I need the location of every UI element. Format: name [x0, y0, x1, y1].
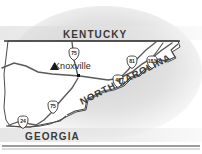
state-label-kentucky: KENTUCKY: [63, 29, 127, 40]
shield-label-i81: 81: [129, 58, 135, 64]
shield-label-i75-north: 75: [71, 50, 77, 56]
state-label-georgia: GEORGIA: [25, 131, 80, 142]
city-dot: [77, 74, 80, 77]
city-label-knoxville: Knoxville: [54, 61, 91, 71]
shield-label-i75-south: 75: [50, 103, 56, 109]
shield-label-i24: 24: [20, 118, 26, 124]
locator-map-figure: 75 81 181 40 75 24 KENTUCKY NORTH CAROLI…: [0, 0, 202, 154]
